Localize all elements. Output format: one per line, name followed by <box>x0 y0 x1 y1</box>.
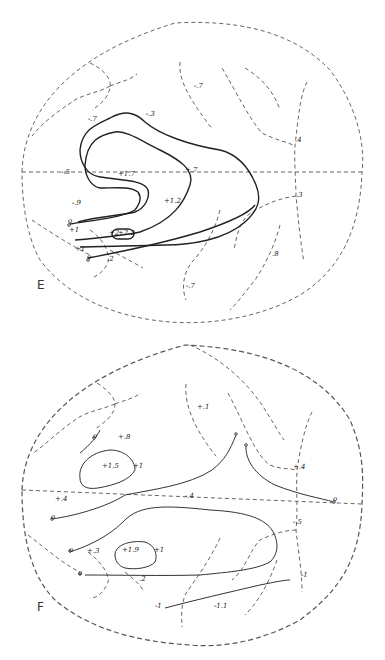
potential-label: +1 <box>154 547 164 554</box>
potential-label: -1 <box>301 572 308 579</box>
potential-label: .8 <box>272 251 279 258</box>
potential-label: o <box>69 547 73 554</box>
potential-label: -.3 <box>146 111 155 118</box>
potential-label: .2 <box>107 256 114 263</box>
potential-label: +.8 <box>118 434 131 441</box>
potential-label: +1 <box>69 227 79 234</box>
potential-label: -1 <box>155 603 162 610</box>
potential-label: o <box>93 433 97 440</box>
potential-label: +1.2 <box>164 198 181 205</box>
panel-label-f: F <box>37 600 44 614</box>
potential-label: o <box>51 514 55 521</box>
potential-label: +1 <box>75 246 85 253</box>
potential-label: +2.2 <box>118 230 135 237</box>
contour-inner <box>70 132 191 240</box>
potential-label: +.3 <box>87 548 100 555</box>
potential-label: -.7 <box>194 83 203 90</box>
potential-label: o <box>78 570 82 577</box>
potential-label: o <box>87 254 91 261</box>
potential-label: -.9 <box>72 200 81 207</box>
contour-outer <box>78 113 259 247</box>
potential-label: -.7 <box>186 283 195 290</box>
potential-label: -1.1 <box>214 603 228 610</box>
potential-label: o <box>333 496 337 503</box>
potential-label: +1.5 <box>102 463 119 470</box>
potential-label: .3 <box>296 192 303 199</box>
potential-label: .4 <box>295 137 302 144</box>
potential-label: +.4 <box>55 496 68 503</box>
contour-f-large <box>70 507 277 575</box>
potential-label: o <box>68 218 72 225</box>
potential-label: +.4 <box>293 464 306 471</box>
contour-map-e-drawing <box>0 0 385 330</box>
potential-label: +1.9 <box>122 547 139 554</box>
potential-label: -.5 <box>61 169 70 176</box>
potential-label: .2 <box>139 576 146 583</box>
potential-label: -.5 <box>293 519 302 526</box>
potential-label: +1.7 <box>118 171 135 178</box>
potential-label: -.7 <box>88 116 97 123</box>
contour-map-panel-e: E <box>0 0 385 330</box>
potential-label: +1 <box>133 463 143 470</box>
potential-label: +.7 <box>185 167 198 174</box>
potential-label: -.4 <box>185 493 194 500</box>
panel-label-e: E <box>37 278 45 292</box>
potential-label: +.1 <box>197 404 210 411</box>
